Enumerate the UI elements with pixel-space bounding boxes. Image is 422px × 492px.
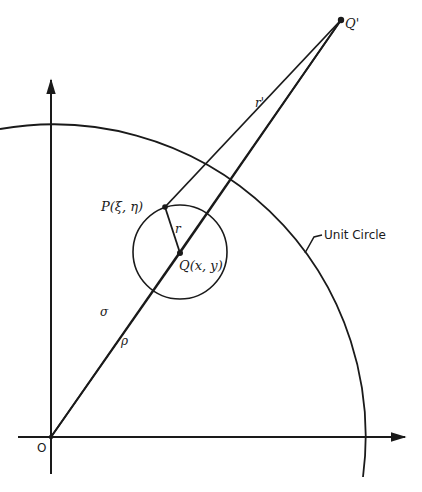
label-unit-circle: Unit Circle	[324, 228, 386, 242]
unit-circle	[0, 124, 366, 477]
segment-r-prime	[165, 20, 341, 207]
point-q-prime	[338, 17, 344, 23]
unit-circle-leader	[305, 235, 322, 253]
segment-q-to-q-prime	[180, 20, 341, 253]
point-q	[177, 250, 183, 256]
label-r: r	[175, 222, 182, 236]
label-p: P(ξ, η)	[100, 199, 143, 214]
label-r-prime: r'	[255, 96, 264, 110]
label-origin: O	[37, 441, 46, 455]
label-sigma: σ	[100, 305, 109, 319]
label-q: Q(x, y)	[179, 258, 223, 273]
diagram-canvas: P(ξ, η) Q(x, y) Q' O σ ρ r r' Unit Circl…	[0, 0, 422, 492]
point-origin	[49, 435, 53, 439]
point-p	[162, 204, 168, 210]
label-rho: ρ	[120, 334, 128, 348]
segment-rho	[51, 253, 180, 437]
label-q-prime: Q'	[345, 16, 359, 31]
